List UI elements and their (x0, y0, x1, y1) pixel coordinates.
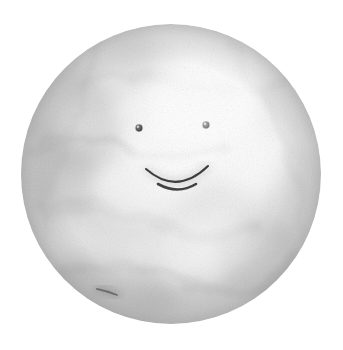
artwork-canvas: Smiling Moon Face (0, 0, 343, 350)
right-eye (202, 121, 210, 129)
left-eye (135, 124, 143, 132)
right-eye-highlight (204, 123, 206, 125)
left-eye-highlight (137, 126, 139, 128)
moon-face-drawing: Smiling Moon Face (0, 0, 343, 350)
